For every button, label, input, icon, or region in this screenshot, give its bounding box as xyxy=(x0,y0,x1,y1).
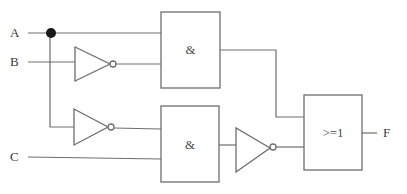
not-gate-1 xyxy=(75,47,116,81)
wire-not2-out xyxy=(114,128,161,129)
circuit-svg xyxy=(0,0,407,194)
or-gate-label: >=1 xyxy=(304,126,362,139)
wire-c xyxy=(28,157,161,159)
output-label-f: F xyxy=(383,126,390,139)
not-gate-3 xyxy=(236,128,276,172)
wire-a-branch xyxy=(50,33,74,127)
and-gate-2-label: & xyxy=(161,138,219,151)
logic-circuit-diagram: A B C F & & >=1 xyxy=(0,0,407,194)
input-label-a: A xyxy=(10,26,19,39)
wire-and1-out xyxy=(220,50,304,117)
input-label-b: B xyxy=(10,55,19,68)
not-gate-2 xyxy=(74,109,114,145)
input-label-c: C xyxy=(10,150,19,163)
and-gate-1-label: & xyxy=(161,43,220,56)
junction-dot xyxy=(46,28,56,38)
